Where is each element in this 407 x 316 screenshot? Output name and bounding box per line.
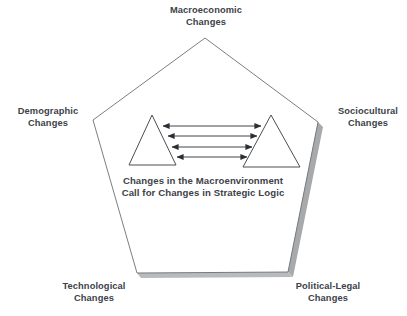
center-caption: Changes in the Macroenvironment Call for… (103, 175, 303, 200)
vertex-label-line2: Changes (277, 293, 379, 305)
right-triangle (243, 115, 300, 167)
vertex-label-demographic: Demographic Changes (8, 106, 88, 129)
pentagon-outline (93, 38, 318, 273)
vertex-label-line1: Demographic (8, 106, 88, 118)
macroenvironment-pentagon-figure: Macroeconomic Changes Demographic Change… (0, 0, 407, 316)
vertex-label-line1: Political-Legal (277, 281, 379, 293)
diagram-canvas (0, 0, 407, 316)
vertex-label-line1: Macroeconomic (148, 5, 264, 17)
vertex-label-line1: Technological (45, 281, 143, 293)
vertex-label-technological: Technological Changes (45, 281, 143, 304)
vertex-label-political-legal: Political-Legal Changes (277, 281, 379, 304)
pentagon-shadow (137, 122, 323, 278)
center-caption-line1: Changes in the Macroenvironment (103, 175, 303, 187)
vertex-label-line2: Changes (330, 118, 406, 130)
bidirectional-arrow-group (163, 126, 261, 157)
center-caption-line2: Call for Changes in Strategic Logic (103, 187, 303, 199)
vertex-label-line2: Changes (8, 118, 88, 130)
vertex-label-line2: Changes (148, 17, 264, 29)
vertex-label-line2: Changes (45, 293, 143, 305)
vertex-label-sociocultural: Sociocultural Changes (330, 106, 406, 129)
vertex-label-macroeconomic: Macroeconomic Changes (148, 5, 264, 28)
left-triangle (129, 115, 176, 165)
vertex-label-line1: Sociocultural (330, 106, 406, 118)
